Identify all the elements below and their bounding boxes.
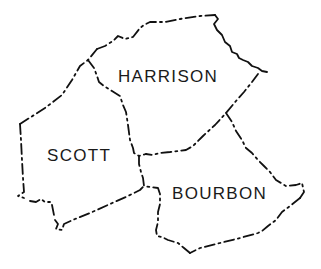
harrison-northeast-river-boundary [214, 15, 267, 72]
bourbon-southeast-boundary [190, 198, 300, 253]
county-label-scott: SCOTT [47, 147, 111, 164]
county-label-bourbon: BOURBON [172, 185, 267, 202]
county-map: HARRISON SCOTT BOURBON [0, 0, 321, 269]
scott-west-boundary [18, 124, 24, 198]
county-boundaries [0, 0, 321, 269]
scott-south-boundary [30, 186, 144, 230]
county-label-harrison: HARRISON [118, 68, 218, 85]
scott-northwest-boundary [20, 49, 97, 124]
harrison-north-boundary [97, 15, 215, 49]
harrison-southeast-boundary [146, 74, 258, 155]
